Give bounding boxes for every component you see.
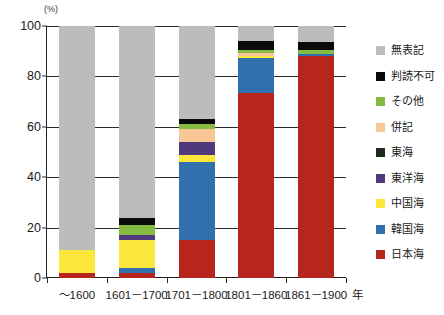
bar-segment[interactable] [238,41,274,50]
legend-label: 併記 [391,122,413,133]
x-tick-mark [107,278,108,283]
bar-segment[interactable] [298,56,334,278]
y-tick-label: 60 [27,120,41,134]
bar-segment[interactable] [119,26,155,218]
x-axis-unit-label: 年 [352,286,363,302]
bar-segment[interactable] [179,142,215,155]
legend-item-9[interactable]: 日本海 [376,242,442,268]
legend-item-6[interactable]: 東洋海 [376,166,442,192]
bar-segment[interactable] [119,218,155,226]
bar-2[interactable] [119,26,155,278]
legend-label: 無表記 [391,45,424,56]
legend-item-3[interactable]: その他 [376,89,442,115]
bar-4[interactable] [238,26,274,278]
bar-segment[interactable] [179,240,215,278]
legend-label: その他 [391,96,424,107]
bar-segment[interactable] [179,155,215,163]
x-tick-mark [167,278,168,283]
bar-segment[interactable] [298,42,334,50]
legend-label: 韓国海 [391,224,424,235]
y-tick-label: 40 [27,170,41,184]
legend-swatch-icon [376,148,385,157]
bar-3[interactable] [179,26,215,278]
bar-5[interactable] [298,26,334,278]
y-tick-mark [42,26,47,27]
x-tick-label: 1701－1800 [165,286,227,302]
bar-segment[interactable] [59,26,95,250]
legend-swatch-icon [376,199,385,208]
bar-segment[interactable] [179,26,215,119]
x-tick-label: 1801－1860 [225,286,287,302]
legend-label: 日本海 [391,249,424,260]
y-axis-unit-label: (%) [44,4,58,14]
bar-segment[interactable] [238,58,274,93]
x-tick-mark [346,278,347,283]
legend-swatch-icon [376,97,385,106]
y-tick-label: 80 [27,69,41,83]
x-tick-label: ～1600 [59,286,96,302]
y-tick-mark [42,76,47,77]
bar-segment[interactable] [179,162,215,240]
legend-item-4[interactable]: 併記 [376,115,442,141]
legend-label: 東海 [391,147,413,158]
x-tick-mark [47,278,48,283]
x-tick-mark [286,278,287,283]
legend-item-1[interactable]: 無表記 [376,38,442,64]
bar-segment[interactable] [59,250,95,273]
bar-segment[interactable] [238,26,274,41]
bar-segment[interactable] [59,273,95,278]
bar-segment[interactable] [298,26,334,42]
bar-segment[interactable] [179,129,215,142]
plot-area: 020406080100～16001601－17001701－18001801－… [46,26,346,278]
plot-inner: 020406080100～16001601－17001701－18001801－… [47,26,346,278]
legend-item-5[interactable]: 東海 [376,140,442,166]
legend-swatch-icon [376,72,385,81]
bar-segment[interactable] [119,273,155,278]
bar-1[interactable] [59,26,95,278]
legend-item-7[interactable]: 中国海 [376,191,442,217]
legend-swatch-icon [376,225,385,234]
y-tick-mark [42,227,47,228]
legend-label: 東洋海 [391,173,424,184]
y-tick-mark [42,177,47,178]
y-tick-mark [42,126,47,127]
stacked-bar-chart: (%) 020406080100～16001601－17001701－18001… [0,0,444,315]
legend-swatch-icon [376,250,385,259]
legend-item-8[interactable]: 韓国海 [376,217,442,243]
x-tick-mark [226,278,227,283]
legend-swatch-icon [376,46,385,55]
legend-label: 判読不可 [391,71,435,82]
y-tick-label: 20 [27,221,41,235]
bar-segment[interactable] [119,240,155,268]
bar-segment[interactable] [119,225,155,235]
legend-swatch-icon [376,174,385,183]
y-tick-label: 0 [34,271,41,285]
bar-segment[interactable] [238,93,274,278]
legend-swatch-icon [376,123,385,132]
x-tick-label: 1861－1900 [285,286,347,302]
y-tick-label: 100 [20,19,41,33]
legend-item-2[interactable]: 判読不可 [376,64,442,90]
legend-label: 中国海 [391,198,424,209]
chart-legend: 無表記判読不可その他併記東海東洋海中国海韓国海日本海 [376,38,442,268]
x-tick-label: 1601－1700 [106,286,168,302]
